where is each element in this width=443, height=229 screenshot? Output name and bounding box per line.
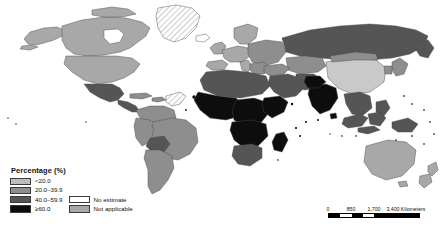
legend-extra-column: No estimate Not applicable [69, 177, 133, 214]
legend-title: Percentage (%) [11, 166, 162, 175]
legend-swatch-no-estimate [69, 196, 90, 203]
scalebar-segment-3 [352, 214, 363, 217]
scalebar-segment-1 [329, 214, 340, 217]
region-sri-lanka [330, 113, 337, 119]
legend-label-20-39: 20.0–39.9 [35, 186, 63, 194]
legend-label-not-applicable: Not applicable [94, 205, 133, 213]
legend-item-ge60: ≥60.0 [10, 205, 63, 214]
legend-label-ge60: ≥60.0 [35, 205, 50, 213]
scalebar-tick-0: 0 [327, 206, 330, 212]
legend-swatch-20-39 [10, 187, 31, 194]
map-legend: Percentage (%) <20.0 20.0–39.9 40.0–59.9 [10, 166, 162, 222]
region-tasmania [398, 181, 408, 187]
legend-swatch-lt20 [10, 178, 31, 185]
scalebar-segment-2 [340, 214, 351, 217]
legend-label-lt20: <20.0 [35, 177, 51, 185]
scalebar-segments [328, 213, 420, 218]
legend-swatch-40-59 [10, 196, 31, 203]
region-korea [384, 66, 392, 74]
legend-item-20-39: 20.0–39.9 [10, 186, 63, 195]
map-scalebar: 0 850 1,700 3,400 Kilometers [328, 206, 420, 218]
scalebar-tick-2: 1,700 [368, 206, 381, 212]
legend-item-not-applicable: Not applicable [69, 205, 133, 214]
scalebar-tick-1: 850 [347, 206, 356, 212]
legend-classes-column: <20.0 20.0–39.9 40.0–59.9 ≥60.0 [10, 177, 63, 214]
legend-swatch-not-applicable [69, 205, 90, 212]
legend-item-40-59: 40.0–59.9 [10, 195, 63, 204]
scalebar-segment-4 [363, 214, 374, 217]
legend-label-40-59: 40.0–59.9 [35, 196, 63, 204]
world-map-figure: Percentage (%) <20.0 20.0–39.9 40.0–59.9 [0, 0, 443, 229]
scalebar-segment-5 [374, 214, 419, 217]
legend-label-no-estimate: No estimate [94, 196, 127, 204]
legend-swatch-ge60 [10, 205, 31, 212]
scalebar-ticks: 0 850 1,700 3,400 Kilometers [328, 206, 420, 213]
legend-item-lt20: <20.0 [10, 177, 63, 186]
legend-item-no-estimate: No estimate [69, 195, 133, 204]
scalebar-tick-3: 3,400 Kilometers [386, 206, 425, 212]
